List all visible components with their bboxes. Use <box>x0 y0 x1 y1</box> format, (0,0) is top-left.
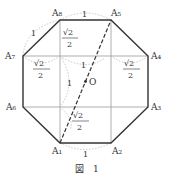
label-side-bottom: 1 <box>83 150 88 159</box>
label-a4: A₄ <box>150 51 161 61</box>
svg-text:√2: √2 <box>73 111 83 120</box>
fraction-top: √2 2 <box>62 28 78 49</box>
label-a3: A₃ <box>150 102 161 112</box>
label-side-top: 1 <box>82 10 87 19</box>
label-a8: A₈ <box>51 8 62 18</box>
svg-text:2: 2 <box>67 40 72 49</box>
label-side-a7a8: 1 <box>31 29 36 38</box>
svg-text:√2: √2 <box>63 28 73 37</box>
center-point <box>84 80 87 83</box>
label-o: O <box>89 77 96 87</box>
label-a7: A₇ <box>4 51 15 61</box>
figure-caption: 図 1 <box>75 164 99 174</box>
fraction-left: √2 2 <box>33 59 50 80</box>
label-side-vertical: 1 <box>67 79 72 88</box>
svg-text:2: 2 <box>128 71 133 80</box>
label-a2: A₂ <box>111 146 122 156</box>
svg-text:√2: √2 <box>124 59 134 68</box>
svg-text:2: 2 <box>38 71 43 80</box>
octagon-diagram: A₈ A₅ A₇ A₄ A₆ A₃ A₁ A₂ O 1 1 1 1 1 √2 2… <box>0 0 172 177</box>
fraction-bottom: √2 2 <box>72 111 89 132</box>
label-a1: A₁ <box>51 146 62 156</box>
svg-text:√2: √2 <box>34 59 44 68</box>
label-a5: A₅ <box>110 8 121 18</box>
svg-text:2: 2 <box>77 123 82 132</box>
label-half-diag: 1 <box>81 61 86 70</box>
label-a6: A₆ <box>5 102 16 112</box>
